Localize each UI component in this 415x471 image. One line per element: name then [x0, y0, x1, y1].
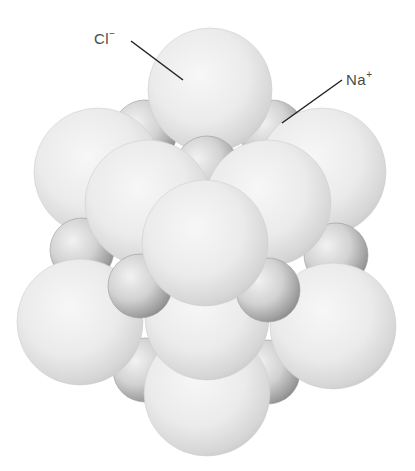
chloride-label: Cl− [94, 29, 116, 47]
sodium-label: Na+ [346, 70, 373, 88]
chloride-ion-center [142, 180, 268, 306]
chloride-charge: − [109, 28, 115, 39]
sodium-charge: + [366, 69, 372, 80]
nacl-lattice-diagram: Cl− Na+ [0, 0, 415, 471]
chloride-symbol: Cl [94, 30, 109, 47]
chloride-ion-top [148, 28, 272, 152]
sodium-symbol: Na [346, 71, 366, 88]
